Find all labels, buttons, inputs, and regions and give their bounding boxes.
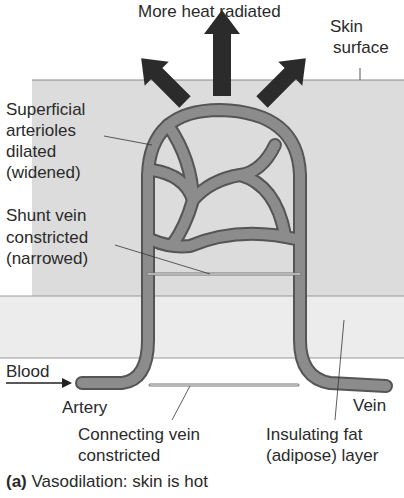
connecting-label-2: constricted <box>78 446 160 466</box>
skin-surface-label-2: surface <box>333 38 389 58</box>
caption-text: Vasodilation: skin is hot <box>32 472 208 491</box>
shunt-label-1: Shunt vein <box>6 206 86 226</box>
skin-surface-label-1: Skin <box>330 17 363 37</box>
superficial-label-1: Superficial <box>6 100 85 120</box>
title-label: More heat radiated <box>138 2 281 22</box>
vasodilation-diagram: More heat radiated Skin surface Superfic… <box>0 0 404 498</box>
superficial-label-3: dilated <box>6 142 56 162</box>
fat-label-1: Insulating fat <box>266 425 362 445</box>
figure-caption: (a) Vasodilation: skin is hot <box>6 472 208 492</box>
caption-letter: (a) <box>6 472 27 491</box>
blood-label: Blood <box>6 362 49 382</box>
artery-label: Artery <box>62 398 107 418</box>
connecting-label-1: Connecting vein <box>78 425 200 445</box>
shunt-label-2: constricted <box>6 228 88 248</box>
vein-label: Vein <box>353 396 386 416</box>
fat-label-2: (adipose) layer <box>266 446 378 466</box>
superficial-label-2: arterioles <box>6 121 76 141</box>
superficial-label-4: (widened) <box>6 163 81 183</box>
shunt-label-3: (narrowed) <box>6 249 88 269</box>
